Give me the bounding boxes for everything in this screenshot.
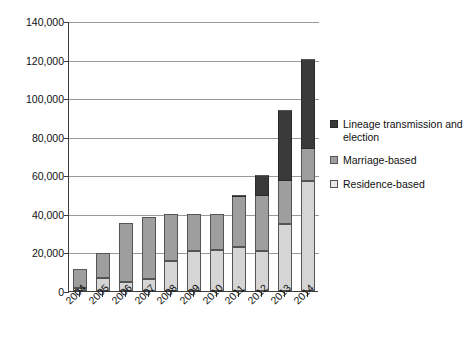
y-axis-tick-label: 20,000 xyxy=(6,248,64,258)
y-axis-tick xyxy=(64,253,69,254)
plot-area xyxy=(68,22,318,292)
bar-2013 xyxy=(278,110,292,291)
y-axis-tick-label: 40,000 xyxy=(6,210,64,220)
bar-segment-marriage-based xyxy=(164,214,178,261)
legend-item: Marriage-based xyxy=(330,154,475,167)
y-axis-tick-label: 60,000 xyxy=(6,171,64,181)
gridline xyxy=(69,99,319,100)
residence-color-swatch-icon xyxy=(330,180,338,188)
gridline xyxy=(69,22,319,23)
y-axis-labels: 020,00040,00060,00080,000100,000120,0001… xyxy=(0,0,64,349)
bar-segment-marriage-based xyxy=(119,223,133,283)
gridline xyxy=(69,61,319,62)
lineage-color-swatch-icon xyxy=(330,120,338,128)
legend-item: Residence-based xyxy=(330,178,475,191)
y-axis-tick-label: 140,000 xyxy=(6,17,64,27)
bar-2011 xyxy=(232,195,246,291)
y-axis-tick xyxy=(64,22,69,23)
bar-segment-lineage-transmission-and-election xyxy=(301,59,315,150)
x-axis-labels: 2004200520062007200820092010201120122013… xyxy=(68,292,328,349)
legend-item: Lineage transmission and election xyxy=(330,118,475,143)
bar-segment-marriage-based xyxy=(255,196,269,251)
legend-item-label: Lineage transmission and election xyxy=(343,118,475,143)
bar-segment-marriage-based xyxy=(278,181,292,224)
bar-2012 xyxy=(255,175,269,291)
bar-2010 xyxy=(210,214,224,291)
bar-2014 xyxy=(301,59,315,291)
bar-segment-marriage-based xyxy=(96,253,110,277)
bar-segment-marriage-based xyxy=(142,217,156,280)
bar-segment-marriage-based xyxy=(187,214,201,251)
y-axis-tick xyxy=(64,99,69,100)
chart-legend: Lineage transmission and electionMarriag… xyxy=(330,118,475,201)
y-axis-tick-label: 120,000 xyxy=(6,56,64,66)
y-axis-tick xyxy=(64,138,69,139)
stacked-bar-chart: 020,00040,00060,00080,000100,000120,0001… xyxy=(0,0,475,349)
y-axis-tick-label: 100,000 xyxy=(6,94,64,104)
bar-segment-lineage-transmission-and-election xyxy=(255,175,269,195)
legend-item-label: Residence-based xyxy=(343,178,425,191)
y-axis-tick-label: 0 xyxy=(6,287,64,297)
bar-segment-marriage-based xyxy=(210,214,224,250)
y-axis-tick xyxy=(64,215,69,216)
bar-segment-marriage-based xyxy=(301,149,315,181)
y-axis-tick-label: 80,000 xyxy=(6,133,64,143)
bar-2008 xyxy=(164,214,178,291)
legend-item-label: Marriage-based xyxy=(343,154,417,167)
y-axis-tick xyxy=(64,176,69,177)
bar-segment-lineage-transmission-and-election xyxy=(278,110,292,181)
y-axis-tick xyxy=(64,61,69,62)
marriage-color-swatch-icon xyxy=(330,156,338,164)
bar-segment-residence-based xyxy=(301,181,315,291)
bar-2009 xyxy=(187,214,201,291)
bar-2006 xyxy=(119,223,133,291)
bar-segment-marriage-based xyxy=(232,197,246,246)
bar-2007 xyxy=(142,217,156,291)
